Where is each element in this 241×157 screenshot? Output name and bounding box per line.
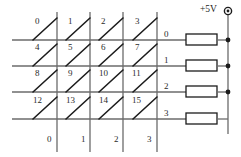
key-label-2: 2 [101, 17, 106, 26]
resistor-row-1 [186, 60, 217, 71]
key-label-3: 3 [135, 17, 140, 26]
column-label-3: 3 [147, 135, 152, 144]
row-label-3: 3 [164, 109, 169, 118]
key-label-7: 7 [135, 43, 140, 52]
key-label-15: 15 [132, 96, 141, 105]
column-label-1: 1 [81, 135, 86, 144]
key-label-10: 10 [99, 69, 108, 78]
key-label-4: 4 [35, 43, 40, 52]
key-label-8: 8 [35, 69, 40, 78]
resistor-row-0 [186, 34, 217, 45]
junction-dot-2 [226, 90, 231, 95]
junction-dot-0 [226, 38, 231, 43]
key-label-5: 5 [68, 43, 73, 52]
supply-terminal-core-icon [227, 10, 230, 13]
key-label-9: 9 [68, 69, 73, 78]
column-label-0: 0 [47, 135, 52, 144]
supply-voltage-label: +5V [200, 5, 217, 14]
column-label-2: 2 [114, 135, 119, 144]
row-label-0: 0 [164, 30, 169, 39]
resistors-group [186, 34, 217, 124]
key-label-1: 1 [68, 17, 73, 26]
key-label-0: 0 [35, 17, 40, 26]
key-label-6: 6 [101, 43, 106, 52]
key-label-14: 14 [99, 96, 108, 105]
key-label-11: 11 [132, 69, 141, 78]
key-label-13: 13 [66, 96, 75, 105]
keyboard-matrix-diagram: 0 1 2 3 4 5 6 7 8 9 10 11 12 13 14 15 0 … [0, 0, 241, 157]
key-label-12: 12 [33, 96, 42, 105]
row-label-2: 2 [164, 82, 169, 91]
resistor-row-2 [186, 86, 217, 97]
supply-rail-group [217, 7, 232, 134]
row-label-1: 1 [164, 56, 169, 65]
resistor-row-3 [186, 113, 217, 124]
junction-dot-1 [226, 64, 231, 69]
